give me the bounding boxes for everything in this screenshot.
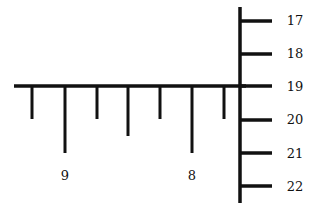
ruler-diagram: 98 171819202122 <box>0 0 315 209</box>
vertical-scale-label: 21 <box>287 146 304 161</box>
diagram-canvas: 98 171819202122 <box>0 0 315 209</box>
vertical-ruler-labels: 171819202122 <box>287 13 304 194</box>
vertical-scale-label: 18 <box>287 46 304 61</box>
vertical-scale-label: 17 <box>287 13 304 28</box>
horizontal-ruler: 98 <box>14 86 246 183</box>
horizontal-scale-label: 8 <box>188 168 196 183</box>
vertical-scale-label: 22 <box>287 179 304 194</box>
horizontal-ruler-ticks <box>32 86 224 153</box>
vertical-ruler: 171819202122 <box>240 7 303 203</box>
horizontal-scale-label: 9 <box>61 168 69 183</box>
horizontal-ruler-labels: 98 <box>61 168 196 183</box>
vertical-scale-label: 20 <box>287 112 304 127</box>
vertical-ruler-ticks <box>240 21 272 186</box>
vertical-scale-label: 19 <box>287 79 304 94</box>
